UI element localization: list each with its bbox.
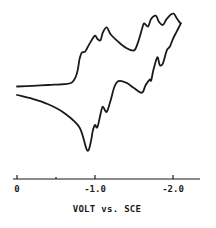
x-tick-label: 0 [14,184,19,194]
x-axis-label: VOLT vs. SCE [73,204,142,214]
x-axis-ticks: 0-1.0-2.0 [14,175,184,194]
cyclic-voltammogram-chart: 0-1.0-2.0 VOLT vs. SCE [0,0,216,228]
x-tick-label: -2.0 [162,184,184,194]
forward-scan-line [17,13,181,86]
reverse-scan-line [17,23,181,150]
x-tick-label: -1.0 [84,184,106,194]
plot-area [17,13,181,150]
